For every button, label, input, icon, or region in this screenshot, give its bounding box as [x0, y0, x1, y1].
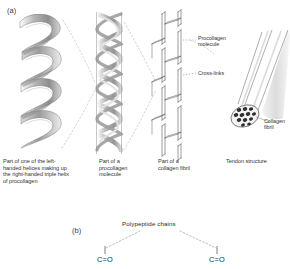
procollagen-drawing	[95, 12, 123, 154]
panel-b-drawing	[105, 231, 217, 254]
callout-collagen-line2: fibril	[264, 124, 290, 130]
collagen-structure-figure: (a) (b) Part of one of the left-handed h…	[0, 0, 290, 269]
left-carbonyl-group: C=O	[97, 255, 113, 264]
callout-cross-links: Cross-links	[198, 70, 242, 76]
alpha-helix-drawing	[20, 14, 61, 148]
caption-alpha-helix: Part of one of the left-handed helices m…	[3, 158, 73, 184]
callout-procollagen-molecule: Procollagen molecule	[198, 35, 238, 48]
right-carbonyl-group: C=O	[209, 255, 225, 264]
expansion-connectors	[62, 20, 214, 150]
panel-b-label: (b)	[72, 226, 81, 235]
callout-collagen-fibril: Collagen fibril	[264, 118, 290, 131]
collagen-fibril-drawing	[152, 10, 181, 160]
caption-tendon-structure: Tendon structure	[226, 158, 288, 165]
callout-procollagen-line2: molecule	[198, 41, 238, 47]
callout-leaders	[183, 40, 196, 75]
caption-collagen-fibril: Part of a collagen fibril	[158, 158, 200, 171]
panel-a-label: (a)	[7, 6, 16, 15]
polypeptide-chains-label: Polypeptide chains	[122, 220, 176, 227]
figure-drawing	[0, 0, 290, 269]
tendon-cross-section	[228, 101, 263, 131]
caption-procollagen-molecule: Part of a procollagen molecule	[99, 158, 143, 178]
